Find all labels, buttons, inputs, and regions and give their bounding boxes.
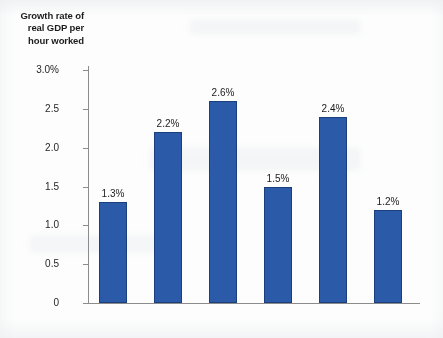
y-tick-label: 2.0 — [0, 142, 59, 153]
bar[interactable] — [154, 132, 182, 303]
bar[interactable] — [264, 187, 292, 304]
y-tick-mark — [83, 109, 88, 110]
y-tick-mark — [83, 303, 88, 304]
bar-value-label: 1.5% — [252, 173, 304, 184]
y-tick-label: 0 — [0, 297, 59, 308]
bar-value-label: 1.2% — [362, 196, 414, 207]
x-axis-line — [88, 303, 420, 304]
y-tick-label: 1.5 — [0, 181, 59, 192]
y-tick-label: 2.5 — [0, 103, 59, 114]
scan-blotch — [190, 20, 360, 34]
bar-chart-figure: Growth rate of real GDP per hour worked … — [0, 0, 443, 338]
bar[interactable] — [99, 202, 127, 303]
y-tick-mark — [83, 264, 88, 265]
bar-value-label: 1.3% — [87, 188, 139, 199]
bar[interactable] — [319, 117, 347, 303]
bar[interactable] — [209, 101, 237, 303]
y-axis-caption-line-2: real GDP per — [8, 22, 84, 34]
y-tick-mark — [83, 70, 88, 71]
y-tick-mark — [83, 148, 88, 149]
bar-value-label: 2.4% — [307, 103, 359, 114]
y-axis-line — [88, 66, 89, 303]
plot-area: 0 0.5 1.0 1.5 2.0 2.5 3.0% 1.3% 1800–190… — [88, 70, 420, 303]
y-axis-caption: Growth rate of real GDP per hour worked — [8, 10, 84, 47]
bar[interactable] — [374, 210, 402, 303]
y-tick-label: 0.5 — [0, 258, 59, 269]
y-tick-label: 3.0% — [0, 64, 59, 75]
y-axis-caption-line-3: hour worked — [8, 35, 84, 47]
bar-value-label: 2.6% — [197, 87, 249, 98]
bar-value-label: 2.2% — [142, 118, 194, 129]
y-tick-label: 1.0 — [0, 219, 59, 230]
y-tick-mark — [83, 225, 88, 226]
y-axis-caption-line-1: Growth rate of — [8, 10, 84, 22]
